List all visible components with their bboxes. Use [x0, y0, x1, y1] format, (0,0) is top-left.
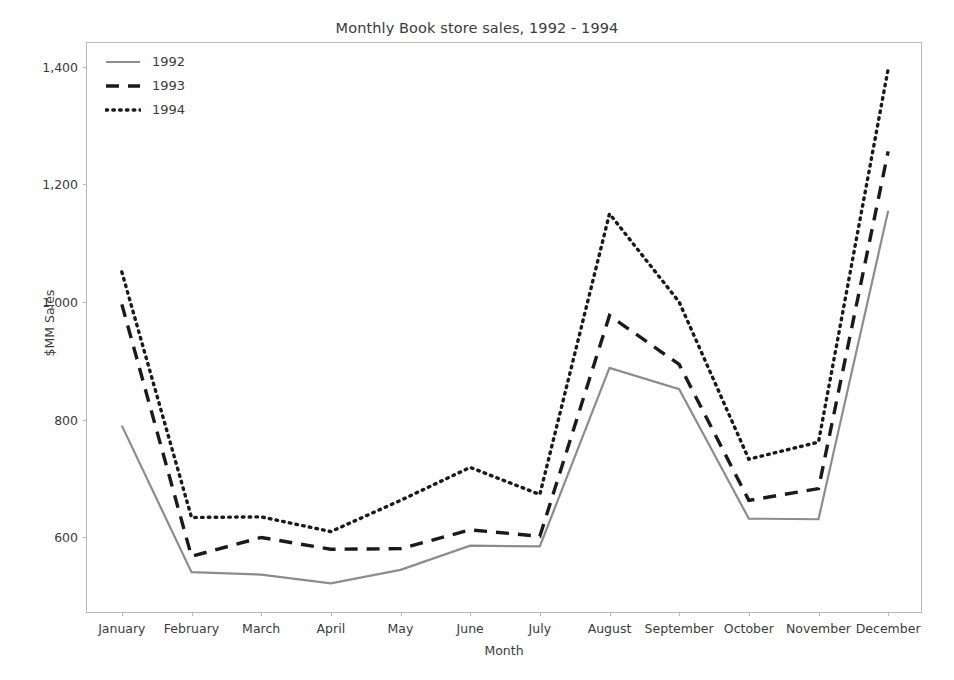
x-tick-mark — [470, 612, 471, 616]
legend-item-1992[interactable]: 1992 — [105, 55, 185, 68]
y-tick-mark — [83, 420, 87, 421]
legend-item-1993[interactable]: 1993 — [105, 79, 185, 92]
x-tick-mark — [192, 612, 193, 616]
x-tick-label: May — [388, 621, 414, 636]
x-tick-label: November — [786, 621, 851, 636]
legend-label: 1993 — [152, 79, 185, 92]
x-tick-label: June — [457, 621, 484, 636]
legend-swatch-dotted-line-icon — [105, 104, 141, 116]
x-tick-label: July — [529, 621, 551, 636]
legend-swatch-dashed-line-icon — [105, 80, 141, 92]
x-tick-label: September — [645, 621, 714, 636]
x-axis-label: Month — [484, 643, 523, 658]
x-tick-label: February — [164, 621, 219, 636]
x-tick-label: August — [588, 621, 632, 636]
y-tick-label: 600 — [54, 530, 78, 545]
y-tick-mark — [83, 184, 87, 185]
x-tick-mark — [540, 612, 541, 616]
x-tick-label: April — [317, 621, 346, 636]
x-tick-mark — [261, 612, 262, 616]
plot-area: $MM Sales Month 6008001,0001,2001,400 Ja… — [86, 42, 922, 613]
legend-label: 1994 — [152, 103, 185, 116]
x-tick-mark — [749, 612, 750, 616]
y-tick-mark — [83, 302, 87, 303]
y-tick-mark — [83, 67, 87, 68]
line-series-1993 — [122, 151, 888, 556]
chart-figure: Monthly Book store sales, 1992 - 1994 $M… — [0, 0, 954, 680]
x-tick-mark — [819, 612, 820, 616]
chart-legend: 199219931994 — [105, 55, 185, 116]
y-tick-mark — [83, 537, 87, 538]
line-series-1994 — [122, 69, 888, 532]
chart-title: Monthly Book store sales, 1992 - 1994 — [0, 20, 954, 36]
y-tick-label: 800 — [54, 412, 78, 427]
x-tick-mark — [122, 612, 123, 616]
x-tick-label: January — [98, 621, 145, 636]
legend-item-1994[interactable]: 1994 — [105, 103, 185, 116]
x-tick-mark — [610, 612, 611, 616]
x-tick-mark — [401, 612, 402, 616]
y-tick-label: 1,000 — [42, 295, 78, 310]
legend-label: 1992 — [152, 55, 185, 68]
y-tick-label: 1,400 — [42, 59, 78, 74]
x-tick-mark — [888, 612, 889, 616]
x-tick-mark — [679, 612, 680, 616]
x-tick-label: December — [856, 621, 921, 636]
x-tick-label: October — [724, 621, 774, 636]
line-series-canvas — [87, 43, 923, 614]
legend-swatch-solid-line-icon — [105, 56, 141, 68]
y-tick-label: 1,200 — [42, 177, 78, 192]
line-series-1992 — [122, 211, 888, 584]
x-tick-label: March — [242, 621, 280, 636]
x-tick-mark — [331, 612, 332, 616]
